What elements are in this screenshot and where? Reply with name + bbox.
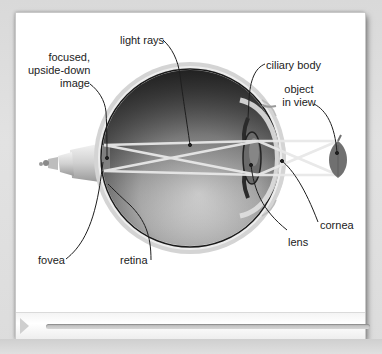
label-object-line2: in view xyxy=(276,96,322,109)
label-focused-image-line1: focused, xyxy=(28,51,90,64)
label-focused-image: focused, upside-down image xyxy=(28,51,90,90)
label-object-line1: object xyxy=(276,83,322,96)
label-fovea: fovea xyxy=(38,254,65,267)
label-cornea: cornea xyxy=(320,219,354,232)
play-icon[interactable] xyxy=(20,318,29,334)
optic-nerve xyxy=(39,144,100,182)
progress-slider[interactable] xyxy=(46,324,370,329)
label-object-in-view: object in view xyxy=(276,83,322,109)
label-retina: retina xyxy=(120,254,148,267)
animation-control-bar xyxy=(16,312,365,339)
label-light-rays: light rays xyxy=(120,34,164,47)
label-ciliary-body: ciliary body xyxy=(266,59,321,72)
label-focused-image-line3: image xyxy=(28,77,90,90)
label-focused-image-line2: upside-down xyxy=(28,64,90,77)
bottom-shade xyxy=(0,339,382,354)
label-lens: lens xyxy=(288,236,308,249)
